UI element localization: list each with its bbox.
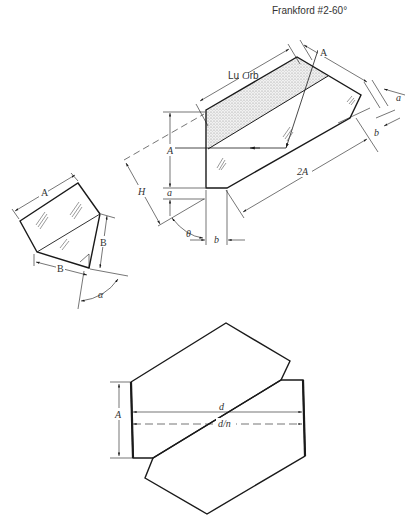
dim-a-right: a — [396, 92, 401, 103]
combined-prism — [110, 323, 305, 514]
dim-b-bottom: b — [214, 234, 219, 245]
dim-B-right: B — [100, 237, 107, 248]
pentaprism — [12, 173, 128, 309]
dim-alpha: α — [98, 289, 104, 300]
dim-H: H — [137, 186, 146, 197]
dim-A-top: A — [320, 47, 328, 58]
dim-B-bottom: B — [57, 263, 64, 274]
dim-A-penta: A — [41, 187, 49, 198]
luxorb-prism — [124, 40, 405, 245]
dim-A-combined: A — [114, 409, 122, 420]
dim-a-left: a — [167, 187, 172, 198]
dim-A-left: A — [166, 145, 174, 156]
dim-d-over-n: d/n — [218, 418, 231, 429]
diagram-canvas: C A a b A a H 2A θ b — [0, 0, 412, 523]
dim-d: d — [219, 401, 225, 412]
dim-2A: 2A — [297, 166, 309, 177]
dim-C: C — [242, 70, 249, 81]
dim-b-right: b — [374, 127, 379, 138]
dim-theta: θ — [186, 228, 191, 239]
